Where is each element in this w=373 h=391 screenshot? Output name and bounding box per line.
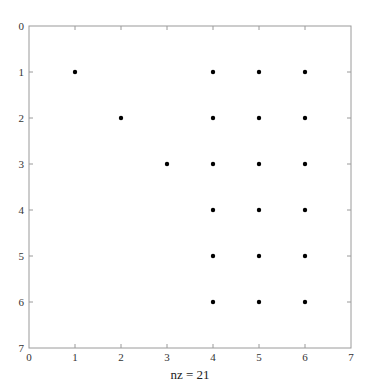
data-point xyxy=(257,116,261,120)
data-point xyxy=(165,162,169,166)
x-tick-label: 5 xyxy=(256,351,262,363)
plot-area xyxy=(29,26,351,348)
y-tick-label: 0 xyxy=(19,20,25,32)
x-axis-label: nz = 21 xyxy=(170,367,209,382)
y-tick-label: 5 xyxy=(19,250,25,262)
y-tick-label: 2 xyxy=(19,112,25,124)
data-point xyxy=(211,116,215,120)
sparsity-plot: 01234567 01234567 nz = 21 xyxy=(0,0,373,391)
data-point xyxy=(257,208,261,212)
data-point xyxy=(303,208,307,212)
data-point xyxy=(303,162,307,166)
data-point xyxy=(211,254,215,258)
data-point xyxy=(303,254,307,258)
data-point xyxy=(211,300,215,304)
data-point xyxy=(73,70,77,74)
x-tick-label: 2 xyxy=(118,351,124,363)
data-point xyxy=(257,70,261,74)
data-point xyxy=(303,300,307,304)
y-tick-label: 3 xyxy=(19,158,25,170)
data-point xyxy=(257,300,261,304)
data-point xyxy=(211,162,215,166)
data-point xyxy=(257,254,261,258)
x-tick-label: 3 xyxy=(164,351,170,363)
x-tick-label: 1 xyxy=(72,351,78,363)
data-point xyxy=(303,70,307,74)
x-tick-labels: 01234567 xyxy=(26,351,354,363)
x-tick-label: 6 xyxy=(302,351,308,363)
data-point xyxy=(257,162,261,166)
y-tick-label: 4 xyxy=(19,204,25,216)
data-point xyxy=(211,70,215,74)
data-point xyxy=(211,208,215,212)
y-tick-label: 6 xyxy=(19,296,25,308)
y-tick-label: 7 xyxy=(19,342,25,354)
x-tick-label: 0 xyxy=(26,351,32,363)
x-tick-label: 7 xyxy=(348,351,354,363)
x-tick-label: 4 xyxy=(210,351,216,363)
data-point xyxy=(303,116,307,120)
data-point xyxy=(119,116,123,120)
y-tick-label: 1 xyxy=(19,66,25,78)
y-tick-labels: 01234567 xyxy=(19,20,25,354)
